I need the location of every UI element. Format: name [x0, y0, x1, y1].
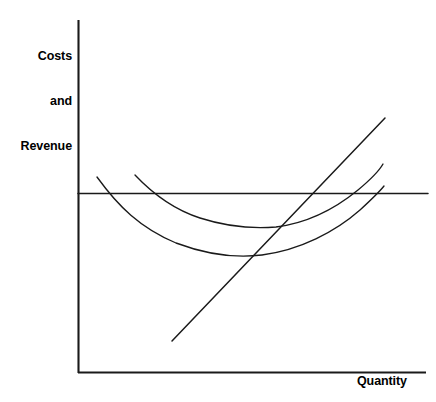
cost-curve-figure: Costs and Revenue Quantity — [0, 0, 436, 402]
plot-area — [0, 0, 436, 402]
average-variable-cost-curve — [135, 164, 383, 228]
average-total-cost-curve — [97, 177, 384, 256]
curves — [78, 118, 428, 341]
marginal-cost-line — [172, 118, 385, 341]
